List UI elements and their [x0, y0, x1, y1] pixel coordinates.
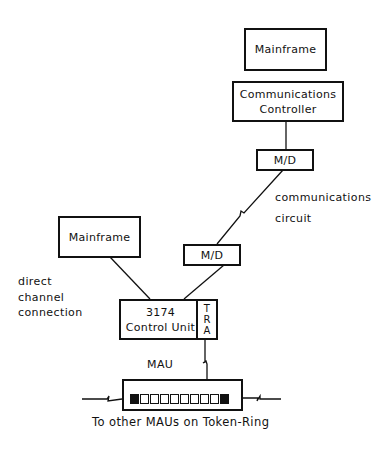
mau-port-connected — [200, 394, 209, 404]
modem-upper-label: M/D — [274, 153, 297, 168]
mau-label: MAU — [147, 357, 173, 373]
mau-box — [122, 379, 243, 411]
mainframe-left-box: Mainframe — [58, 216, 141, 258]
token-ring-caption: To other MAUs on Token-Ring — [92, 415, 269, 431]
mau-ports — [130, 394, 229, 404]
comm-controller-line1: Communications — [240, 87, 337, 102]
mau-port-end — [130, 394, 139, 404]
direct-channel-label: direct channel connection — [18, 274, 83, 321]
modem-lower-label: M/D — [201, 248, 224, 263]
communications-controller-box: Communications Controller — [232, 81, 344, 122]
link-md-controlunit — [184, 265, 224, 299]
direct-channel-line — [110, 257, 150, 299]
control-unit-label: Control Unit — [126, 320, 195, 335]
network-diagram: Mainframe Communications Controller M/D … — [0, 0, 390, 449]
mau-port — [150, 394, 159, 404]
control-unit-box: 3174 Control Unit T R A — [119, 299, 218, 340]
control-unit-main: 3174 Control Unit — [121, 301, 200, 338]
mau-port — [160, 394, 169, 404]
mainframe-top-label: Mainframe — [255, 42, 317, 57]
mau-port — [140, 394, 149, 404]
mau-port — [170, 394, 179, 404]
mau-port — [190, 394, 199, 404]
mau-port — [210, 394, 219, 404]
modem-lower-box: M/D — [183, 244, 241, 266]
control-unit-model: 3174 — [146, 305, 175, 320]
modem-upper-box: M/D — [256, 149, 314, 171]
mau-port — [180, 394, 189, 404]
communications-circuit-label: communications circuit — [275, 190, 371, 226]
ring-line-right — [242, 396, 281, 401]
comm-controller-line2: Controller — [259, 102, 316, 117]
communications-circuit-line — [217, 170, 283, 244]
mainframe-left-label: Mainframe — [69, 230, 131, 245]
ring-line-left — [82, 396, 122, 401]
token-ring-adapter: T R A — [196, 301, 216, 338]
mainframe-top-box: Mainframe — [244, 28, 327, 71]
mau-port-end — [220, 394, 229, 404]
